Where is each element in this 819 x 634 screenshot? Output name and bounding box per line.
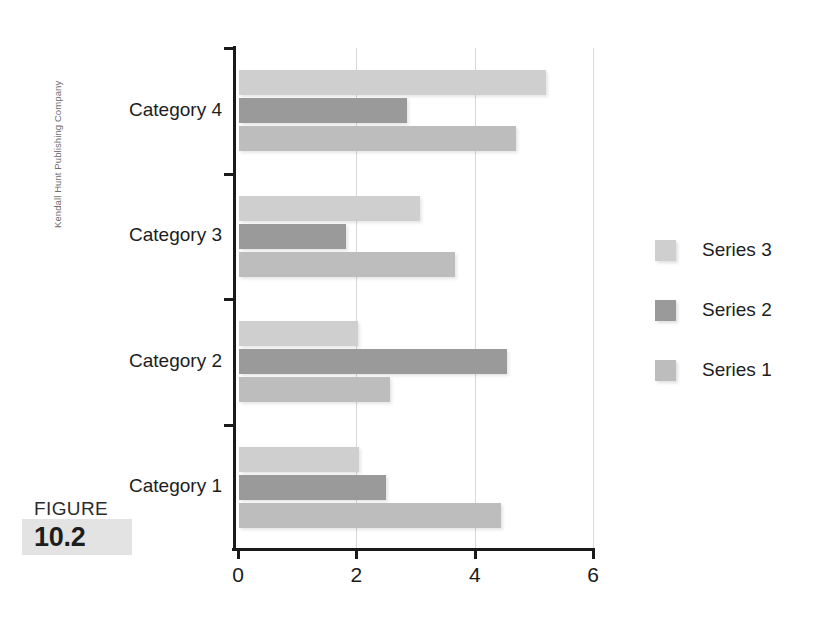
bar <box>239 503 501 528</box>
figure-page: Kendall Hunt Publishing Company FIGURE 1… <box>0 0 819 634</box>
gridline <box>593 48 594 550</box>
category-label: Category 2 <box>129 350 222 372</box>
x-axis-tick-label: 2 <box>351 563 363 587</box>
gridline <box>475 48 476 550</box>
bar <box>239 224 346 249</box>
x-axis-tick-label: 4 <box>469 563 481 587</box>
legend-label: Series 2 <box>702 299 772 321</box>
x-axis-tick <box>474 548 477 559</box>
bar <box>239 196 420 221</box>
legend-swatch-icon <box>655 360 676 381</box>
category-label: Category 1 <box>129 475 222 497</box>
legend-label: Series 1 <box>702 359 772 381</box>
legend-swatch-icon <box>655 300 676 321</box>
legend-item[interactable]: Series 3 <box>655 220 772 280</box>
x-axis-tick <box>237 548 240 559</box>
legend-label: Series 3 <box>702 239 772 261</box>
y-axis-line <box>233 46 236 550</box>
legend-item[interactable]: Series 2 <box>655 280 772 340</box>
bar <box>239 252 455 277</box>
category-label: Category 3 <box>129 224 222 246</box>
bar <box>239 98 407 123</box>
category-label: Category 4 <box>129 99 222 121</box>
x-axis-tick-label: 6 <box>587 563 599 587</box>
legend-swatch-icon <box>655 240 676 261</box>
chart-legend: Series 3Series 2Series 1 <box>655 220 772 400</box>
bar <box>239 377 390 402</box>
x-axis-line <box>232 548 594 551</box>
bar <box>239 321 358 346</box>
legend-item[interactable]: Series 1 <box>655 340 772 400</box>
x-axis-tick-label: 0 <box>232 563 244 587</box>
x-axis-tick <box>355 548 358 559</box>
x-axis-tick <box>592 548 595 559</box>
bar <box>239 70 546 95</box>
bar <box>239 475 386 500</box>
bar <box>239 126 516 151</box>
bar <box>239 349 507 374</box>
bar <box>239 447 359 472</box>
